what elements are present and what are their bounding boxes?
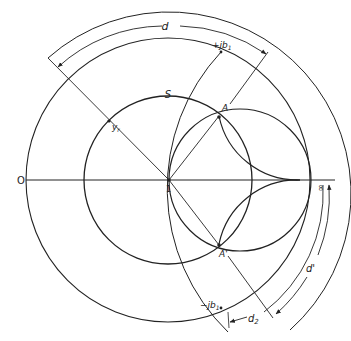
d2-dimension-arc-right xyxy=(264,185,323,312)
point-1 xyxy=(167,178,171,182)
point-minus-jb1 xyxy=(220,307,223,310)
d-prime-dimension-arc xyxy=(276,277,307,314)
point-A xyxy=(217,115,221,119)
point-A-prime xyxy=(217,243,221,247)
radial-line-A-prime xyxy=(228,256,273,318)
label-minus-jb1: −jb1 xyxy=(200,300,220,311)
cusp-arc-lower xyxy=(219,180,300,244)
d2-dimension-arc xyxy=(230,317,247,322)
susceptance-arc xyxy=(167,52,228,332)
label-plus-jb1: +jb1 xyxy=(212,40,232,51)
label-O: O xyxy=(17,175,25,186)
d-prime-dimension-arc-upper xyxy=(318,185,329,255)
label-1: 1 xyxy=(166,185,171,194)
label-d-prime: d' xyxy=(306,263,315,274)
label-B-infinity: ∞ xyxy=(316,184,326,192)
d2-tick xyxy=(228,312,229,328)
label-d: d xyxy=(162,20,170,33)
d-dimension-arc xyxy=(58,26,162,67)
point-plus-jb1 xyxy=(220,51,223,54)
label-A-prime: A' xyxy=(218,249,228,259)
label-S: S xyxy=(165,89,172,100)
label-A: A xyxy=(221,103,228,113)
radial-line-yr xyxy=(48,58,169,180)
label-d2: d2 xyxy=(248,313,259,326)
label-yr: yr xyxy=(111,122,120,133)
point-yr xyxy=(107,119,110,122)
smith-chart-diagram: d +jb1 S A yr O 1 ∞ A' −jb1 d2 d' xyxy=(0,0,351,341)
radial-line-A xyxy=(230,52,268,104)
cusp-arc-upper xyxy=(219,116,300,180)
